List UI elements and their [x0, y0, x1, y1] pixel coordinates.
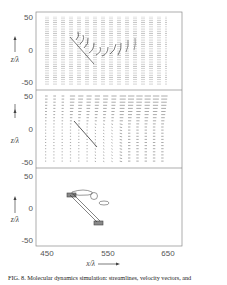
velocity-vector — [120, 124, 123, 125]
velocity-vector — [103, 124, 105, 125]
velocity-vector — [120, 152, 122, 153]
velocity-vector — [120, 158, 122, 159]
velocity-vector — [95, 127, 96, 128]
velocity-vector — [120, 130, 122, 131]
tick-top-neg50: -50 — [21, 78, 33, 87]
velocity-vector — [111, 146, 112, 147]
velocity-vector — [120, 149, 122, 150]
velocity-vector — [95, 130, 96, 131]
y-label-top: z/λ — [10, 55, 20, 64]
velocity-vector — [111, 143, 112, 144]
panel-velocity-vectors — [45, 96, 168, 162]
figure: 50 0 -50 50 0 -50 50 0 -50 z/λ z/λ z/λ 4… — [0, 0, 227, 285]
x-label-text: x/λ — [85, 259, 95, 268]
velocity-vector — [111, 152, 112, 153]
velocity-vector — [103, 139, 104, 140]
tick-x-450: 450 — [40, 249, 54, 258]
velocity-vector — [111, 133, 112, 134]
velocity-vector — [103, 161, 104, 162]
y-axis-labels: z/λ z/λ z/λ — [10, 36, 20, 224]
velocity-vector — [111, 139, 112, 140]
velocity-vector — [103, 146, 104, 147]
velocity-vector — [95, 136, 96, 137]
tick-top-0: 0 — [29, 46, 34, 55]
velocity-vector — [103, 155, 104, 156]
velocity-vector — [111, 124, 113, 125]
tick-bot-neg50: -50 — [21, 236, 33, 245]
y-label-mid: z/λ — [10, 136, 20, 145]
velocity-vector — [120, 161, 122, 162]
velocity-vector — [103, 133, 104, 134]
velocity-vector — [111, 158, 112, 159]
velocity-vector — [95, 124, 97, 125]
velocity-vector — [111, 127, 112, 128]
velocity-vector — [120, 143, 122, 144]
velocity-vector — [103, 152, 104, 153]
x-ticks: 450 550 650 — [40, 249, 175, 258]
velocity-vector — [120, 133, 122, 134]
y-label-bot: z/λ — [10, 215, 20, 224]
tick-bot-0: 0 — [29, 204, 34, 213]
velocity-vector — [111, 155, 112, 156]
velocity-vector — [95, 139, 96, 140]
velocity-vector — [111, 149, 112, 150]
panel-trajectory — [67, 190, 109, 225]
tick-bot-50: 50 — [24, 172, 33, 181]
tick-mid-0: 0 — [29, 125, 34, 134]
tick-x-650: 650 — [161, 249, 175, 258]
velocity-vector — [120, 127, 122, 128]
velocity-vector — [111, 136, 112, 137]
velocity-vector — [120, 136, 122, 137]
velocity-vector — [111, 130, 112, 131]
y-ticks: 50 0 -50 50 0 -50 50 0 -50 — [21, 13, 33, 245]
tick-mid-neg50: -50 — [21, 158, 33, 167]
velocity-vector — [111, 161, 112, 162]
velocity-vector — [120, 146, 122, 147]
velocity-vector — [103, 149, 104, 150]
velocity-vector — [95, 161, 96, 162]
velocity-vector — [103, 136, 104, 137]
tick-top-50: 50 — [24, 13, 33, 22]
velocity-vector — [103, 158, 104, 159]
velocity-vector — [103, 130, 104, 131]
tick-mid-50: 50 — [24, 92, 33, 101]
velocity-vector — [95, 158, 96, 159]
tick-x-550: 550 — [101, 249, 115, 258]
x-axis-label: x/λ — [85, 259, 120, 268]
velocity-vector — [103, 127, 104, 128]
velocity-vector — [95, 152, 96, 153]
panel-streamlines — [45, 16, 167, 85]
velocity-vector — [95, 143, 96, 144]
velocity-vector — [120, 139, 122, 140]
velocity-vector — [95, 149, 96, 150]
velocity-vector — [120, 155, 122, 156]
velocity-vector — [95, 133, 96, 134]
velocity-vector — [95, 155, 96, 156]
velocity-vector — [103, 143, 104, 144]
figure-caption: FIG. 8. Molecular dynamics simulation: s… — [8, 274, 227, 281]
